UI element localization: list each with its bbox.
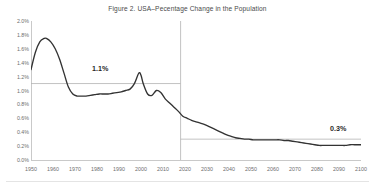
plot-area xyxy=(31,21,361,160)
y-axis-tick: 1.4% xyxy=(3,60,29,66)
x-axis-tick: 2010 xyxy=(157,166,169,172)
x-axis-line xyxy=(31,160,361,161)
figure-container: Figure 2. USA–Pecentage Change in the Po… xyxy=(0,0,375,193)
bottom-divider xyxy=(6,181,369,182)
x-axis-tick: 2070 xyxy=(289,166,301,172)
x-axis-tick: 2090 xyxy=(333,166,345,172)
x-axis-tick-labels: 1950196019701980199020002010202020302040… xyxy=(31,166,361,176)
x-axis-tick: 2100 xyxy=(355,166,367,172)
x-axis-tick: 2040 xyxy=(223,166,235,172)
x-axis-tick: 1990 xyxy=(113,166,125,172)
y-axis-tick-labels: 0.0%0.2%0.4%0.6%0.8%1.0%1.2%1.4%1.6%1.8%… xyxy=(0,21,29,160)
x-axis-tick: 1950 xyxy=(25,166,37,172)
y-axis-tick: 0.0% xyxy=(3,157,29,163)
population-change-line xyxy=(31,38,361,146)
y-axis-tick: 1.8% xyxy=(3,32,29,38)
y-axis-tick: 0.4% xyxy=(3,129,29,135)
x-axis-tick: 1960 xyxy=(47,166,59,172)
x-axis-tick: 1970 xyxy=(69,166,81,172)
y-axis-tick: 1.2% xyxy=(3,74,29,80)
annotation-projected-average: 0.3% xyxy=(330,124,346,133)
y-axis-tick: 0.2% xyxy=(3,143,29,149)
y-axis-tick: 0.6% xyxy=(3,115,29,121)
x-axis-tick: 2050 xyxy=(245,166,257,172)
page-title: Figure 2. USA–Pecentage Change in the Po… xyxy=(0,5,375,12)
x-axis-tick: 2080 xyxy=(311,166,323,172)
x-axis-tick: 1980 xyxy=(91,166,103,172)
x-axis-tick: 2030 xyxy=(201,166,213,172)
x-axis-tick: 2020 xyxy=(179,166,191,172)
line-chart-svg xyxy=(31,21,361,160)
y-axis-tick: 2.0% xyxy=(3,18,29,24)
y-axis-tick: 1.0% xyxy=(3,88,29,94)
y-axis-tick: 1.6% xyxy=(3,46,29,52)
y-axis-tick: 0.8% xyxy=(3,101,29,107)
x-axis-tick: 2000 xyxy=(135,166,147,172)
annotation-historic-average: 1.1% xyxy=(92,64,108,73)
x-axis-tick: 2060 xyxy=(267,166,279,172)
